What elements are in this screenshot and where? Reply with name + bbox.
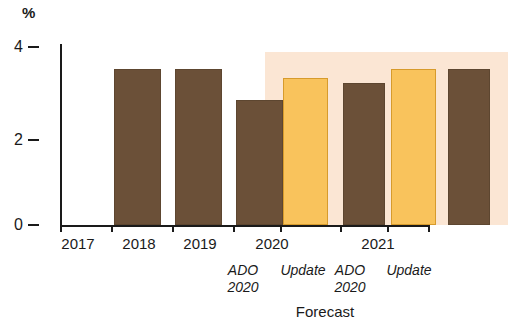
x-sublabel-2020-update: Update xyxy=(280,262,325,279)
y-tick-2: 2 xyxy=(14,131,58,149)
x-label-2017: 2017 xyxy=(61,235,94,252)
bar-2018 xyxy=(175,69,222,225)
x-sublabel-2020-ado-line2: 2020 xyxy=(227,279,258,296)
x-tick-0 xyxy=(60,225,62,232)
y-tick-0-label: 0 xyxy=(14,216,23,234)
forecast-caption: Forecast xyxy=(296,303,354,320)
x-sublabel-2020-ado: ADO 2020 xyxy=(227,262,258,295)
x-tick-4 xyxy=(280,225,282,232)
plot-area xyxy=(60,0,428,227)
bar-2021-update xyxy=(448,69,490,225)
bar-2020-update xyxy=(343,83,385,225)
x-label-2020: 2020 xyxy=(255,235,288,252)
y-tick-2-label: 2 xyxy=(14,131,23,149)
x-sublabel-2021-ado-line2: 2020 xyxy=(334,279,365,296)
y-tick-4-label: 4 xyxy=(14,38,23,56)
y-tick-4-mark xyxy=(28,46,39,48)
y-tick-4: 4 xyxy=(14,38,58,56)
x-tick-7 xyxy=(428,225,430,232)
bar-2020-ado-2020 xyxy=(283,78,328,225)
bar-2019 xyxy=(236,100,283,225)
x-tick-2 xyxy=(172,225,174,232)
x-label-2021: 2021 xyxy=(361,235,394,252)
x-sublabel-2021-ado-line1: ADO xyxy=(335,262,365,278)
x-sublabel-2021-ado: ADO 2020 xyxy=(334,262,365,295)
y-tick-2-mark xyxy=(28,139,39,141)
x-tick-1 xyxy=(111,225,113,232)
bar-2021-ado-2020 xyxy=(391,69,436,225)
x-tick-5 xyxy=(340,225,342,232)
x-sublabel-2021-update: Update xyxy=(386,262,431,279)
x-label-2018: 2018 xyxy=(122,235,155,252)
y-axis-unit-label: % xyxy=(22,4,36,21)
bar-2017 xyxy=(114,69,161,225)
y-tick-0-mark xyxy=(28,224,39,226)
x-tick-3 xyxy=(233,225,235,232)
x-label-2019: 2019 xyxy=(183,235,216,252)
y-tick-0: 0 xyxy=(14,216,58,234)
x-sublabel-2020-ado-line1: ADO xyxy=(228,262,258,278)
x-tick-6 xyxy=(387,225,389,232)
